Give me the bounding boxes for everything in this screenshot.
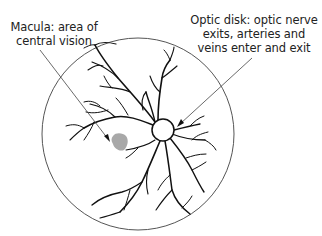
retina-diagram: [0, 0, 322, 236]
optic-disk-arrowhead: [177, 119, 184, 127]
blood-vessels: [66, 43, 216, 218]
optic-disk-leader-line: [180, 58, 252, 124]
macula: [112, 133, 128, 150]
fundus-outline: [42, 38, 234, 230]
optic-disk: [152, 119, 174, 141]
